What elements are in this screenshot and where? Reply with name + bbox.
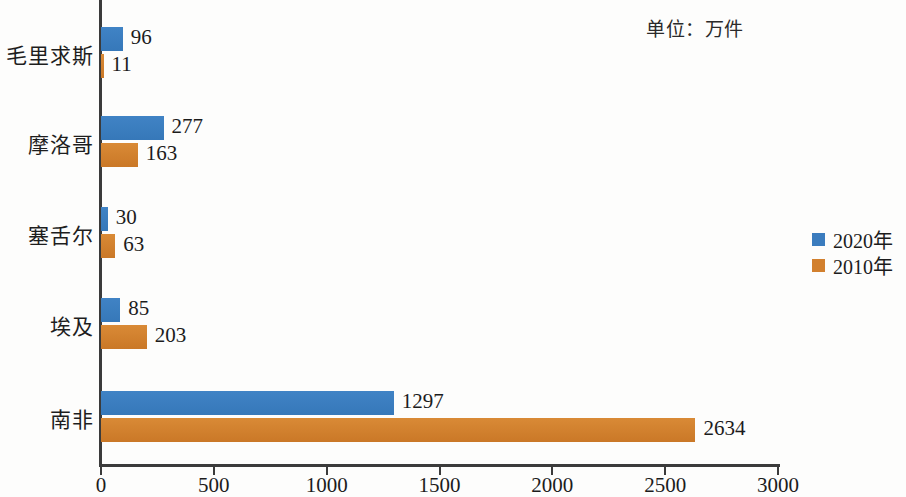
bar-2010年-毛里求斯: [101, 54, 104, 78]
bar-value-label: 277: [172, 114, 204, 139]
bar-value-label: 203: [155, 323, 187, 348]
bar-2020年-埃及: [101, 298, 120, 322]
legend-swatch-2010: [812, 259, 825, 272]
legend-label: 2020年: [833, 225, 893, 254]
bar-2020年-毛里求斯: [101, 27, 123, 51]
category-label: 南非: [50, 403, 94, 433]
category-label: 塞舌尔: [28, 219, 94, 249]
bar-value-label: 63: [123, 232, 144, 257]
axis-tick-label: 0: [96, 473, 107, 497]
bar-value-label: 30: [116, 205, 137, 230]
bar-2010年-埃及: [101, 325, 147, 349]
category-label: 摩洛哥: [28, 128, 94, 158]
legend-item[interactable]: 2020年: [812, 226, 906, 252]
axis-tick-label: 3000: [757, 473, 799, 497]
bar-2020年-塞舌尔: [101, 207, 108, 231]
bar-value-label: 96: [131, 25, 152, 50]
bar-2020年-摩洛哥: [101, 116, 164, 140]
plot-area: 050010001500200025003000 毛里求斯摩洛哥塞舌尔埃及南非 …: [0, 0, 906, 497]
bar-2010年-塞舌尔: [101, 234, 115, 258]
axis-tick-label: 500: [198, 473, 230, 497]
axis-tick-label: 2000: [531, 473, 573, 497]
bar-value-label: 2634: [703, 416, 745, 441]
axis-tick-label: 1500: [419, 473, 461, 497]
axis-tick-label: 1000: [306, 473, 348, 497]
legend-swatch-2020: [812, 233, 825, 246]
bar-2010年-摩洛哥: [101, 143, 138, 167]
bar-2010年-南非: [101, 418, 695, 442]
bar-value-label: 85: [128, 296, 149, 321]
bar-value-label: 163: [146, 141, 178, 166]
bar-value-label: 1297: [402, 389, 444, 414]
axis-tick-label: 2500: [644, 473, 686, 497]
legend-item[interactable]: 2010年: [812, 252, 906, 278]
legend-label: 2010年: [833, 251, 893, 280]
bar-2020年-南非: [101, 391, 394, 415]
category-label: 埃及: [50, 310, 94, 340]
category-label: 毛里求斯: [6, 39, 94, 69]
bar-value-label: 11: [112, 52, 132, 77]
chart-legend: 2020年2010年: [812, 226, 906, 278]
bar-chart: 单位：万件 050010001500200025003000 毛里求斯摩洛哥塞舌…: [0, 0, 906, 497]
